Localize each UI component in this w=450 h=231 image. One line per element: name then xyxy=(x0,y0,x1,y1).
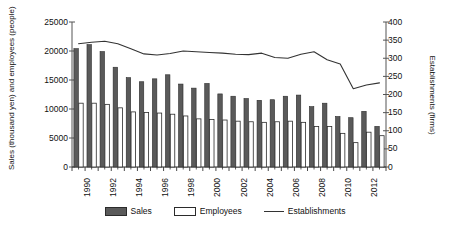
bar-employees xyxy=(249,122,253,167)
bar-sales xyxy=(205,83,209,167)
bar-employees xyxy=(367,132,371,167)
bar-employees xyxy=(275,122,279,167)
bar-sales xyxy=(152,79,156,167)
bar-employees xyxy=(196,119,200,167)
bar-sales xyxy=(375,126,379,167)
bar-employees xyxy=(327,126,331,167)
bar-employees xyxy=(223,120,227,167)
bar-sales xyxy=(296,95,300,167)
bar-sales xyxy=(322,103,326,167)
bar-sales xyxy=(100,52,104,167)
chart-legend: Sales Employees Establishments xyxy=(0,207,450,216)
chart-root: Sales (thousand yen) and employees (peop… xyxy=(0,0,450,231)
bar-sales xyxy=(231,96,235,167)
legend-label-employees: Employees xyxy=(200,207,242,216)
bar-employees xyxy=(314,126,318,167)
legend-item-sales[interactable]: Sales xyxy=(105,207,152,216)
bar-sales xyxy=(257,100,261,167)
bar-employees xyxy=(118,108,122,167)
bar-sales xyxy=(309,107,313,167)
bar-employees xyxy=(170,114,174,167)
bar-employees xyxy=(288,121,292,167)
bar-sales xyxy=(192,88,196,167)
bar-sales xyxy=(179,84,183,167)
bar-employees xyxy=(79,103,83,167)
bar-sales xyxy=(336,117,340,167)
bar-sales xyxy=(113,67,117,167)
bar-sales xyxy=(165,75,169,167)
legend-label-sales: Sales xyxy=(131,207,152,216)
establishments-line-icon xyxy=(264,211,284,212)
bar-employees xyxy=(262,122,266,167)
bar-sales xyxy=(270,100,274,167)
legend-label-establishments: Establishments xyxy=(288,207,346,216)
bar-employees xyxy=(131,112,135,167)
line-establishments xyxy=(79,41,380,88)
bar-sales xyxy=(139,82,143,167)
bar-sales xyxy=(283,96,287,167)
bar-sales xyxy=(126,78,130,167)
bar-employees xyxy=(340,133,344,167)
bar-sales xyxy=(74,49,78,167)
bar-sales xyxy=(349,118,353,167)
bar-employees xyxy=(210,119,214,167)
bar-employees xyxy=(183,116,187,167)
bar-sales xyxy=(87,45,91,167)
bar-employees xyxy=(236,121,240,167)
bar-employees xyxy=(380,136,384,167)
bar-sales xyxy=(362,111,366,167)
bar-employees xyxy=(353,143,357,167)
sales-swatch-icon xyxy=(105,207,127,216)
bar-sales xyxy=(244,99,248,167)
legend-item-employees[interactable]: Employees xyxy=(174,207,242,216)
legend-item-establishments[interactable]: Establishments xyxy=(264,207,346,216)
bar-employees xyxy=(144,112,148,167)
bar-employees xyxy=(157,113,161,167)
bar-employees xyxy=(301,122,305,167)
employees-swatch-icon xyxy=(174,207,196,216)
bar-employees xyxy=(105,104,109,167)
bar-sales xyxy=(218,94,222,167)
bar-employees xyxy=(92,103,96,167)
plot-area xyxy=(0,0,450,231)
